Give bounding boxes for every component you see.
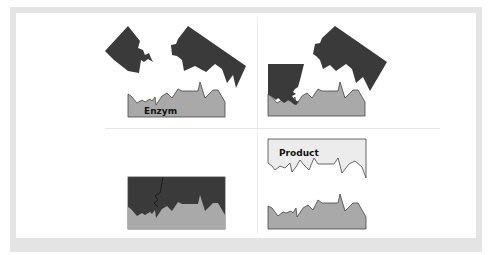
enzyme-shape-released — [268, 194, 366, 229]
product-shape — [268, 139, 366, 178]
product-label: Product — [279, 148, 319, 158]
panel-top-right — [268, 26, 387, 116]
panel-bottom-left — [128, 177, 225, 229]
enzyme-diagram: Enzym Product — [0, 0, 492, 255]
substrate-piece-left — [105, 26, 153, 73]
panel-bottom-right: Product — [268, 139, 366, 229]
panel-top-left: Enzym — [105, 26, 246, 117]
enzyme-label: Enzym — [144, 106, 177, 116]
substrate-piece-right-binding — [313, 26, 387, 91]
substrate-piece-right — [171, 26, 246, 88]
